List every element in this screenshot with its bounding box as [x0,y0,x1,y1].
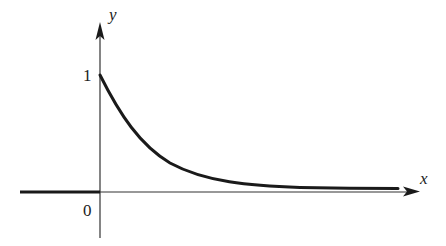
exponential-decay-curve [100,75,398,189]
plot-canvas: y x 1 0 [0,0,446,246]
y-axis-label: y [107,5,117,24]
y-tick-label-one: 1 [83,66,92,85]
origin-label: 0 [83,201,92,220]
x-axis-label: x [419,169,428,188]
